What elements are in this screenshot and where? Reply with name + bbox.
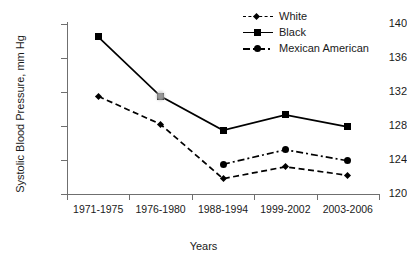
x-tick-label: 1999-2002 (254, 203, 316, 215)
x-axis-title: Years (0, 240, 407, 252)
x-tick (379, 194, 380, 200)
data-point-black (344, 123, 351, 130)
legend-marker-square-icon (254, 29, 261, 36)
legend-marker-circle-icon (254, 45, 261, 52)
x-tick (129, 194, 130, 200)
x-tick-label: 1971-1975 (67, 203, 129, 215)
data-point-mexican-american (220, 161, 227, 168)
x-tick-label: 2003-2006 (317, 203, 379, 215)
legend: WhiteBlackMexican American (243, 10, 403, 58)
x-tick (317, 194, 318, 200)
legend-label: White (279, 10, 307, 22)
legend-item-white[interactable]: White (243, 10, 403, 24)
x-tick (67, 194, 68, 200)
chart-container: Systolic Blood Pressure, mm Hg Years 120… (0, 0, 407, 267)
legend-label: Mexican American (279, 42, 369, 54)
legend-marker-diamond-icon (253, 12, 260, 19)
data-point-black (220, 127, 227, 134)
legend-item-black[interactable]: Black (243, 26, 403, 40)
x-tick (192, 194, 193, 200)
x-axis-line (67, 194, 380, 195)
legend-item-mexican-american[interactable]: Mexican American (243, 42, 403, 56)
data-point-black (95, 33, 102, 40)
x-tick-label: 1988-1994 (192, 203, 254, 215)
data-point-black (282, 111, 289, 118)
x-tick (254, 194, 255, 200)
x-tick-label: 1976-1980 (130, 203, 192, 215)
y-axis-title: Systolic Blood Pressure, mm Hg (14, 14, 26, 214)
legend-label: Black (279, 26, 306, 38)
